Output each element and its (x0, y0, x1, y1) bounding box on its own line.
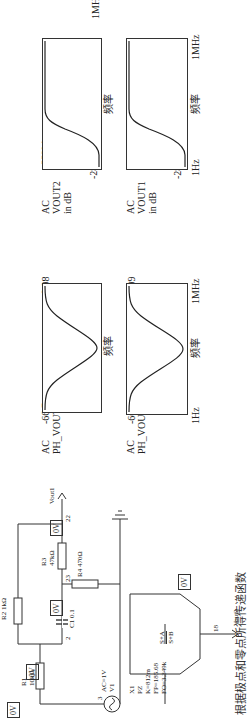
document-page: 0V 0V 0V 0V 0V R110kΩ R2 1kΩ R347kΩ R4 4… (0, 0, 250, 724)
r2-label: R2 1kΩ (0, 598, 8, 620)
r1-label: R110kΩ (20, 670, 36, 686)
plot1-area (42, 283, 102, 413)
plot4-area (126, 38, 188, 170)
circuit-schematic (0, 484, 250, 724)
c1-label: C1 0.1 (68, 609, 76, 628)
plot4-xmax: 1MHz (190, 34, 201, 60)
output-arrow-icon (58, 493, 66, 499)
node-label: 18 (212, 625, 220, 632)
r3-label: R347kΩ (40, 550, 56, 566)
plot2-xlabel: 频率 (190, 338, 201, 358)
block-expression: S+A S+B (158, 631, 175, 644)
plot2-area (126, 283, 188, 415)
v1-label: AC=1VV1 (100, 670, 116, 692)
vout1-label: Vout1 (48, 487, 56, 504)
r4-label: R4 470Ω (76, 551, 84, 577)
bias-label: 0V (50, 520, 63, 536)
plot4-xlabel: 频率 (190, 94, 201, 114)
node-label: 2 (64, 637, 72, 641)
block-bias-label: 0V (178, 574, 191, 590)
resistor-r2 (14, 598, 22, 624)
plot4-xmin: 1Hz (190, 159, 201, 176)
plot3-xlabel: 频率 (103, 94, 114, 114)
node-label: 3 (96, 697, 104, 701)
resistor-r3 (58, 543, 66, 569)
plot3-ylabel: AC VOUT2 in dB (40, 181, 73, 214)
plot3-xmax: 1MHz (90, 0, 101, 19)
plot3-area (42, 38, 102, 170)
bias-label: 0V (50, 600, 63, 616)
resistor-r4 (72, 580, 98, 588)
block-params: X1 PZ K=812m FP=185.68 FO=3.349k (128, 662, 168, 694)
bias-label: 0V (7, 702, 20, 718)
plot1-xlabel: 频率 (103, 336, 114, 356)
node-label: 22 (64, 515, 72, 522)
plot2-xmax: 1MHz (190, 278, 201, 304)
node-label: 23 (64, 575, 72, 582)
plot2-xmin: 1Hz (190, 407, 201, 424)
figure-caption: 根据极点和零点所得传递函数 (232, 572, 248, 715)
plot4-ylabel: AC VOUT1 in dB (125, 181, 158, 214)
